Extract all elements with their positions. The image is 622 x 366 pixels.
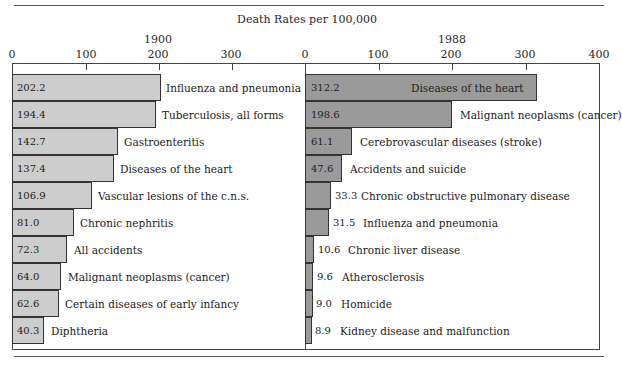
bar-label: Vascular lesions of the c.n.s. xyxy=(98,190,249,202)
bar-1988 xyxy=(305,263,313,290)
bar-label: Chronic nephritis xyxy=(80,217,173,229)
bar-value: 312.2 xyxy=(311,82,340,94)
bar-label: Influenza and pneumonia xyxy=(166,82,301,94)
bar-1988 xyxy=(305,236,314,263)
tick-label: 0 xyxy=(302,49,309,61)
bottom-rule xyxy=(14,356,604,357)
bar-value: 33.3 xyxy=(335,190,357,202)
bar-label: Atherosclerosis xyxy=(342,271,424,283)
tick-mark xyxy=(526,64,527,70)
bar-label: Kidney disease and malfunction xyxy=(340,325,510,337)
bar-label: Diseases of the heart xyxy=(411,82,524,94)
bar-value: 61.1 xyxy=(311,136,333,148)
bar-value: 106.9 xyxy=(17,190,46,202)
bar-label: Influenza and pneumonia xyxy=(363,217,498,229)
bar-value: 8.9 xyxy=(315,325,331,337)
bar-value: 47.6 xyxy=(311,163,333,175)
tick-label: 400 xyxy=(589,49,610,61)
bar-value: 64.0 xyxy=(17,271,39,283)
panel-1900-plot: 202.2 Influenza and pneumonia 194.4 Tube… xyxy=(12,63,306,350)
bar-label: Tuberculosis, all forms xyxy=(162,109,284,121)
bar-label: Diphtheria xyxy=(51,325,108,337)
top-rule xyxy=(14,5,604,6)
bar-label: Certain diseases of early infancy xyxy=(65,298,239,310)
tick-mark xyxy=(159,64,160,70)
bar-label: Diseases of the heart xyxy=(120,163,233,175)
tick-mark xyxy=(379,64,380,70)
tick-label: 300 xyxy=(515,49,536,61)
tick-label: 200 xyxy=(148,49,169,61)
tick-mark xyxy=(232,64,233,70)
bar-value: 198.6 xyxy=(311,109,340,121)
bar-value: 194.4 xyxy=(17,109,46,121)
bar-label: All accidents xyxy=(74,244,142,256)
bar-1988 xyxy=(305,209,329,236)
bar-value: 202.2 xyxy=(17,82,46,94)
bar-value: 137.4 xyxy=(17,163,46,175)
bar-label: Gastroenteritis xyxy=(124,136,204,148)
tick-label: 100 xyxy=(76,49,97,61)
chart-title: Death Rates per 100,000 xyxy=(237,14,377,26)
bar-value: 9.6 xyxy=(317,271,333,283)
bar-label: Malignant neoplasms (cancer) xyxy=(460,109,622,121)
panel-1988-plot: 312.2 Diseases of the heart 198.6 Malign… xyxy=(305,63,600,350)
bar-1988 xyxy=(305,290,313,317)
tick-mark xyxy=(86,64,87,70)
bar-label: Homicide xyxy=(341,298,392,310)
panel-1900-year: 1900 xyxy=(144,34,172,46)
bar-1988 xyxy=(305,317,312,344)
bar-value: 31.5 xyxy=(333,217,355,229)
tick-label: 200 xyxy=(441,49,462,61)
bar-value: 81.0 xyxy=(17,217,39,229)
tick-label: 100 xyxy=(368,49,389,61)
tick-mark xyxy=(452,64,453,70)
bar-label: Cerebrovascular diseases (stroke) xyxy=(360,136,542,148)
bar-label: Malignant neoplasms (cancer) xyxy=(68,271,230,283)
tick-label: 0 xyxy=(9,49,16,61)
bar-label: Chronic liver disease xyxy=(348,244,460,256)
bar-value: 9.0 xyxy=(316,298,332,310)
panel-1988-year: 1988 xyxy=(438,34,466,46)
tick-label: 300 xyxy=(221,49,242,61)
bar-value: 62.6 xyxy=(17,298,39,310)
bar-label: Accidents and suicide xyxy=(350,163,466,175)
bar-value: 72.3 xyxy=(17,244,39,256)
bar-value: 10.6 xyxy=(318,244,340,256)
bar-1988 xyxy=(305,182,331,209)
bar-value: 142.7 xyxy=(17,136,46,148)
bar-label: Chronic obstructive pulmonary disease xyxy=(361,190,570,202)
bar-value: 40.3 xyxy=(17,325,39,337)
